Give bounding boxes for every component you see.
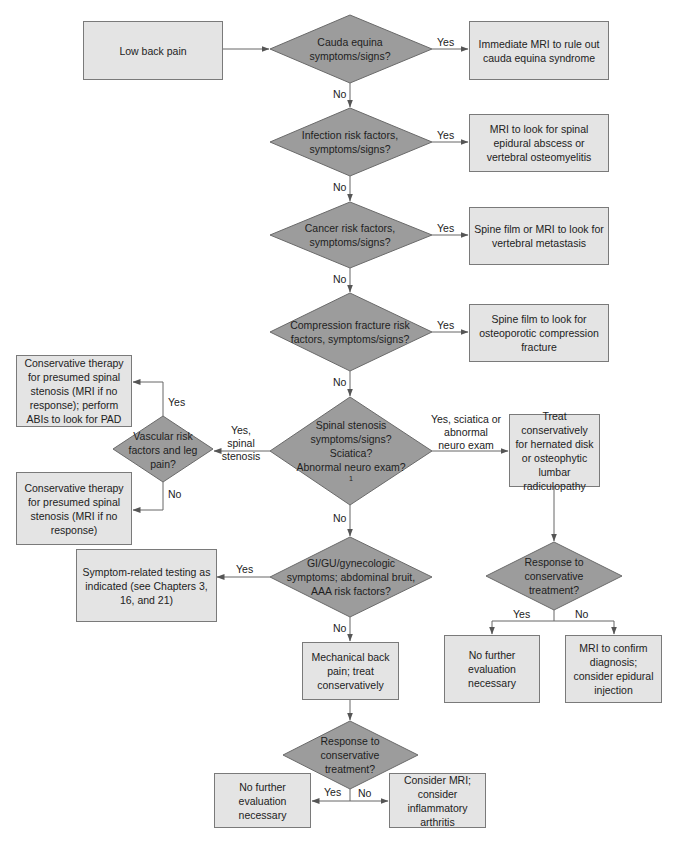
edge-label-infection-yes: Yes: [437, 129, 454, 142]
edge-label-cancer-no: No: [333, 273, 346, 286]
diamond-cancer: [270, 202, 432, 268]
outcome-bottom-mri: Consider MRI; consider inflammatory arth…: [389, 773, 486, 828]
start-box-low-back-pain: Low back pain: [83, 21, 223, 80]
start-label: Low back pain: [119, 44, 186, 58]
edge-label-infection-no: No: [333, 181, 346, 194]
edge-label-response-right-yes: Yes: [513, 608, 530, 621]
edge-label-response-right-no: No: [575, 608, 588, 621]
outcome-bottom-no-further: No further evaluation necessary: [214, 773, 311, 828]
edge-label-cauda-yes: Yes: [437, 36, 454, 49]
diamond-gi: [270, 537, 432, 617]
outcome-cancer-film: Spine film or MRI to look for vertebral …: [469, 207, 609, 265]
edge-label-response-bottom-no: No: [358, 787, 371, 800]
outcome-infection-mri: MRI to look for spinal epidural abscess …: [469, 114, 609, 172]
edge-label-compression-yes: Yes: [437, 319, 454, 332]
edge-label-compression-no: No: [333, 376, 346, 389]
outcome-treat-disk: Treat conservatively for hernated disk o…: [509, 414, 600, 487]
outcome-cauda-mri: Immediate MRI to rule out cauda equina s…: [469, 21, 609, 80]
outcome-vascular-no: Conservative therapy for presumed spinal…: [16, 472, 132, 545]
outcome-vascular-yes: Conservative therapy for presumed spinal…: [16, 355, 132, 427]
outcome-right-no-further: No further evaluation necessary: [444, 635, 540, 703]
outcome-right-mri: MRI to confirm diagnosis; consider epidu…: [565, 635, 662, 703]
diamond-response-right: [486, 542, 622, 610]
diamond-infection: [270, 108, 432, 176]
diamond-cauda: [270, 15, 432, 83]
edge-label-cancer-yes: Yes: [437, 222, 454, 235]
edge-label-stenosis-left: Yes, spinal stenosis: [216, 424, 266, 463]
edge-label-stenosis-no-visible: No: [333, 512, 346, 525]
edge-label-vascular-yes: Yes: [168, 396, 185, 409]
edge-label-cauda-no: No: [333, 88, 346, 101]
edge-label-gi-yes: Yes: [236, 563, 253, 576]
edge-label-vascular-no: No: [168, 488, 181, 501]
diamond-stenosis: [270, 397, 432, 505]
outcome-symptom-testing: Symptom-related testing as indicated (se…: [76, 549, 217, 622]
outcome-mechanical: Mechanical back pain; treat conservative…: [302, 642, 399, 700]
edge-label-gi-no: No: [333, 622, 346, 635]
diamond-compression: [270, 293, 432, 371]
edge-label-stenosis-right: Yes, sciatica or abnormal neuro exam: [430, 413, 502, 452]
outcome-compression-film: Spine film to look for osteoporotic comp…: [469, 304, 609, 362]
edge-label-response-bottom-yes: Yes: [324, 786, 341, 799]
